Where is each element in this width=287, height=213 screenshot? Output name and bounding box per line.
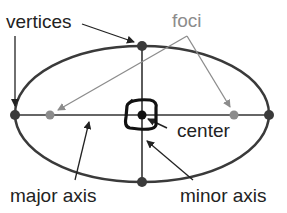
- focus-dot-left: [46, 111, 55, 120]
- foci-label: foci: [172, 11, 202, 30]
- minor-axis-label: minor axis: [180, 186, 267, 205]
- vertices-label: vertices: [6, 12, 71, 31]
- vertex-dot-right: [264, 110, 274, 120]
- vertex-dot-top: [137, 41, 147, 51]
- vertices-arrow-top: [82, 24, 134, 42]
- focus-dot-right: [230, 111, 239, 120]
- center-dot: [138, 111, 147, 120]
- foci-arrow-right: [187, 36, 230, 107]
- major-axis-label: major axis: [10, 186, 97, 205]
- vertex-dot-bottom: [137, 177, 147, 187]
- minor-axis-arrow: [147, 141, 193, 180]
- major-axis-arrow: [75, 122, 89, 180]
- center-label: center: [177, 121, 230, 140]
- vertex-dot-left: [10, 110, 20, 120]
